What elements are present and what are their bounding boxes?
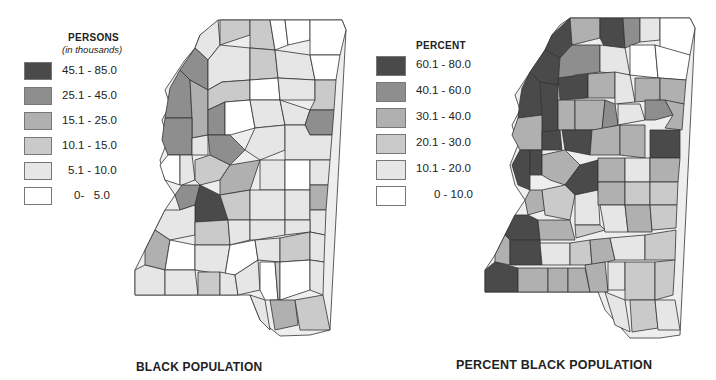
legend-swatch <box>376 108 406 128</box>
legend-swatch <box>24 187 52 205</box>
legend-range: 60.1 - 80.0 <box>416 58 471 70</box>
legend-swatch <box>24 112 52 130</box>
legend-swatch <box>24 87 52 105</box>
legend-swatch <box>376 160 406 180</box>
mississippi-county-map <box>120 0 350 340</box>
legend-range: 10.1 - 20.0 <box>416 162 471 174</box>
legend-range: 15.1 - 25.0 <box>62 114 117 126</box>
legend-swatch <box>376 56 406 76</box>
legend-subtitle: (in thousands) <box>62 44 122 55</box>
legend-swatch <box>376 186 406 206</box>
legend-swatch <box>376 134 406 154</box>
legend-title: PERSONS <box>68 32 119 43</box>
percent-legend: PERCENT 60.1 - 80.0 40.1 - 60.0 30.1 - 4… <box>376 40 486 210</box>
legend-range: 30.1 - 40.0 <box>416 110 471 122</box>
black-population-panel: PERSONS (in thousands) 45.1 - 85.0 25.1 … <box>0 0 360 380</box>
legend-swatch <box>24 137 52 155</box>
legend-range: 5.1 - 10.0 <box>68 164 117 176</box>
legend-range: 0- 5.0 <box>74 189 110 201</box>
map-caption: PERCENT BLACK POPULATION <box>456 358 652 372</box>
percent-black-population-panel: PERCENT 60.1 - 80.0 40.1 - 60.0 30.1 - 4… <box>360 0 716 380</box>
legend-range: 40.1 - 60.0 <box>416 84 471 96</box>
legend-range: 20.1 - 30.0 <box>416 136 471 148</box>
legend-swatch <box>24 62 52 80</box>
mississippi-county-map <box>480 0 716 340</box>
legend-range: 10.1 - 15.0 <box>62 139 117 151</box>
legend-range: 45.1 - 85.0 <box>62 64 117 76</box>
persons-legend: PERSONS (in thousands) 45.1 - 85.0 25.1 … <box>24 30 124 210</box>
legend-swatch <box>376 82 406 102</box>
legend-range: 0 - 10.0 <box>434 188 473 200</box>
legend-title: PERCENT <box>416 40 466 51</box>
map-caption: BLACK POPULATION <box>136 360 262 374</box>
legend-swatch <box>24 162 52 180</box>
legend-range: 25.1 - 45.0 <box>62 89 117 101</box>
